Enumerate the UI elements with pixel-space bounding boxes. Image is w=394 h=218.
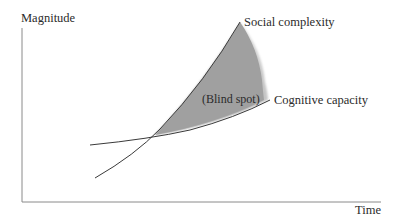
cognitive-capacity-label: Cognitive capacity bbox=[274, 93, 368, 108]
social-complexity-label: Social complexity bbox=[244, 15, 335, 30]
x-axis-label: Time bbox=[355, 203, 381, 218]
diagram-canvas bbox=[0, 0, 394, 218]
blind-spot-label: (Blind spot) bbox=[202, 92, 260, 107]
y-axis-label: Magnitude bbox=[21, 11, 75, 26]
